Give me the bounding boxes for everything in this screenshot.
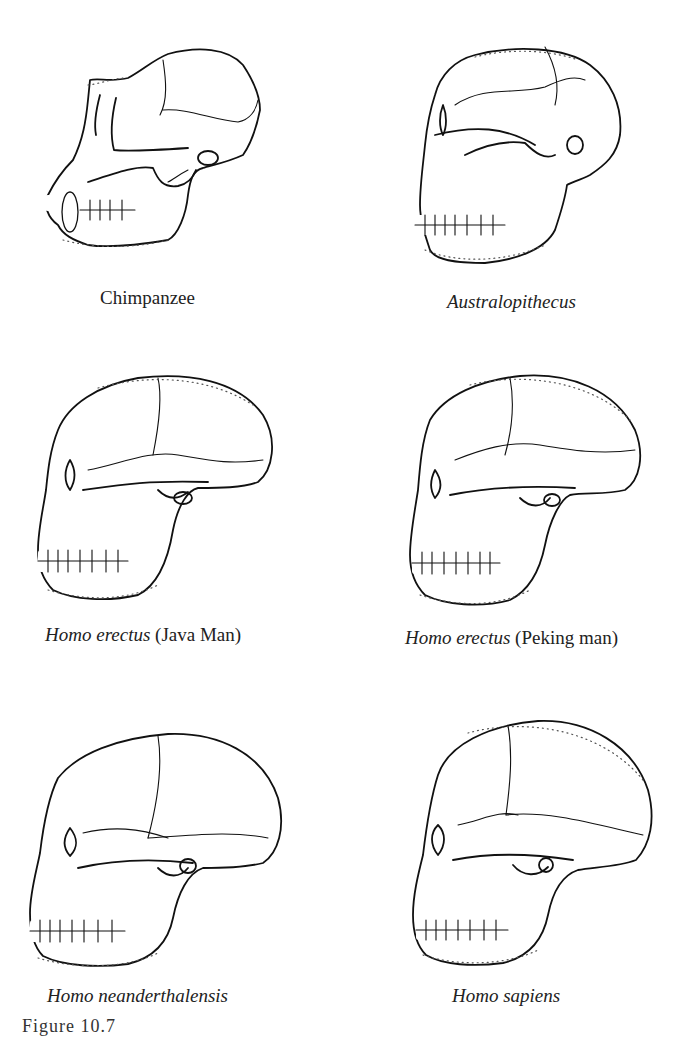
homo-erectus-peking-skull-drawing: [400, 370, 655, 615]
caption-plain: Chimpanzee: [100, 287, 195, 308]
caption-plain: (Peking man): [510, 627, 618, 648]
caption-italic: Homo sapiens: [452, 985, 560, 1006]
caption-italic: Homo erectus: [45, 624, 150, 645]
caption-italic: Australopithecus: [447, 291, 576, 312]
caption-homo-erectus-peking: Homo erectus (Peking man): [405, 627, 618, 649]
caption-chimpanzee: Chimpanzee: [100, 287, 195, 309]
homo-erectus-java-skull-drawing: [28, 370, 288, 610]
caption-homo-erectus-java: Homo erectus (Java Man): [45, 624, 241, 646]
caption-italic: Homo neanderthalensis: [47, 985, 228, 1006]
caption-australopithecus: Australopithecus: [447, 291, 576, 313]
homo-neanderthalensis-skull-drawing: [18, 728, 293, 973]
australopithecus-skull-drawing: [395, 35, 645, 270]
chimpanzee-skull-drawing: [28, 40, 278, 255]
caption-homo-sapiens: Homo sapiens: [452, 985, 560, 1007]
caption-plain: (Java Man): [150, 624, 241, 645]
figure-label: Figure 10.7: [22, 1016, 116, 1037]
homo-sapiens-skull-drawing: [398, 715, 663, 970]
caption-homo-neanderthalensis: Homo neanderthalensis: [47, 985, 228, 1007]
caption-italic: Homo erectus: [405, 627, 510, 648]
